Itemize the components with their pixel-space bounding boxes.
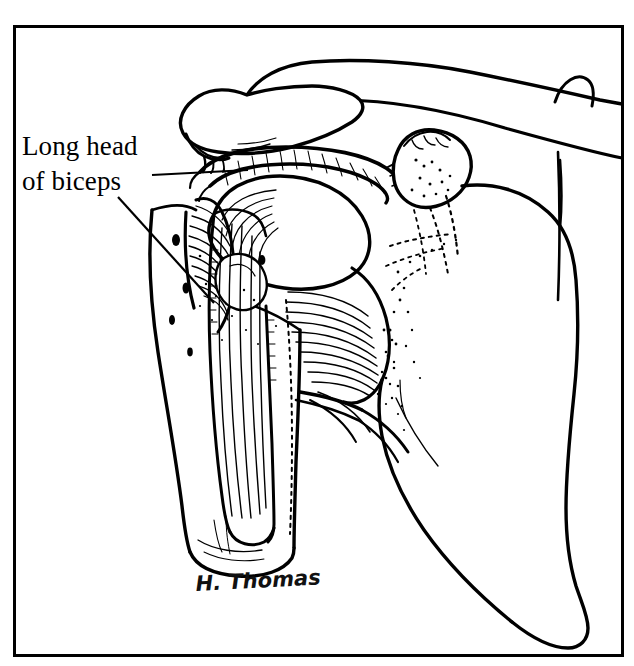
shoulder-anatomy-drawing: Long head of biceps H. Thomas [0, 0, 634, 666]
label-line-2: of biceps [22, 166, 121, 196]
anatomical-figure: Long head of biceps H. Thomas [0, 0, 634, 666]
label-line-1: Long head [22, 131, 138, 161]
